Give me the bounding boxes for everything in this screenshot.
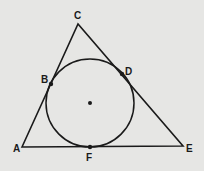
label-E: E [186, 143, 193, 154]
triangle-ACE [22, 24, 183, 147]
center-point [88, 101, 92, 105]
tangent-point-B [49, 82, 53, 86]
tangent-point-F [88, 145, 92, 149]
label-A: A [13, 143, 20, 154]
label-D: D [125, 66, 132, 77]
tangent-point-D [120, 72, 124, 76]
label-C: C [74, 10, 81, 21]
inscribed-circle-diagram: A B C D E F [0, 0, 204, 171]
label-B: B [41, 74, 48, 85]
label-F: F [86, 152, 92, 163]
